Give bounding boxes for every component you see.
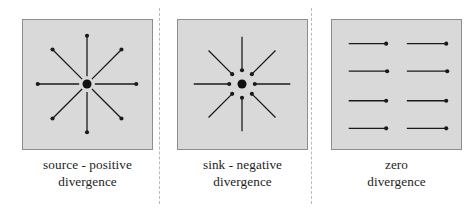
arrow-head-e [134, 82, 138, 86]
caption-sink-line2: divergence [177, 174, 308, 191]
arrow-head-ne [119, 47, 123, 51]
arrow-shaft-nw [54, 51, 83, 80]
zero-arrow-shafts [349, 44, 446, 129]
arrow-head-r1c2 [444, 42, 448, 46]
source-vector-field-box [22, 19, 153, 150]
arrow-shaft-nw [209, 51, 234, 76]
arrow-head-sw [230, 92, 234, 96]
arrow-head-nw [50, 47, 54, 51]
arrow-head-sw [50, 116, 54, 120]
zero-divergence-vector-field-svg [332, 20, 461, 149]
arrow-head-w [36, 82, 40, 86]
sink-vector-field-svg [178, 20, 307, 149]
arrow-head-r4c2 [444, 126, 448, 130]
arrow-head-r3c2 [444, 99, 448, 103]
caption-source-line1: source - positive [22, 157, 153, 174]
source-vector-field-svg [23, 20, 152, 149]
arrow-shaft-se [251, 93, 276, 118]
caption-zero: zero divergence [331, 157, 462, 190]
arrow-head-se [250, 92, 254, 96]
arrow-shaft-se [92, 89, 121, 118]
caption-source-line2: divergence [22, 174, 153, 191]
arrow-head-w [227, 82, 231, 86]
arrow-head-r3c1 [384, 99, 388, 103]
arrow-head-r2c1 [385, 69, 389, 73]
panel-separator-1 [159, 8, 160, 204]
arrow-head-r2c2 [445, 69, 449, 73]
arrow-head-r1c1 [384, 42, 388, 46]
caption-source: source - positive divergence [22, 157, 153, 190]
caption-sink: sink - negative divergence [177, 157, 308, 190]
arrow-shaft-sw [54, 89, 83, 118]
panel-sink: sink - negative divergence [177, 19, 308, 190]
arrow-head-r4c1 [384, 126, 388, 130]
caption-zero-line2: divergence [331, 174, 462, 191]
arrow-head-se [119, 116, 123, 120]
arrow-head-e [253, 82, 257, 86]
arrow-head-n [240, 68, 244, 72]
arrow-head-s [85, 130, 89, 134]
sink-center-dot [237, 79, 246, 88]
sink-vector-field-box [177, 19, 308, 150]
panel-separator-2 [311, 8, 312, 204]
panel-zero: zero divergence [331, 19, 462, 190]
zero-arrow-heads [384, 42, 449, 131]
arrow-shaft-ne [251, 51, 276, 76]
source-center-dot [82, 79, 91, 88]
divergence-figure: source - positive divergence [0, 0, 472, 211]
arrow-head-nw [230, 72, 234, 76]
arrow-head-ne [250, 72, 254, 76]
panel-source: source - positive divergence [22, 19, 153, 190]
arrow-head-n [85, 34, 89, 38]
zero-divergence-vector-field-box [331, 19, 462, 150]
arrow-head-s [240, 96, 244, 100]
caption-zero-line1: zero [331, 157, 462, 174]
arrow-shaft-sw [209, 93, 234, 118]
caption-sink-line1: sink - negative [177, 157, 308, 174]
arrow-shaft-ne [92, 51, 121, 80]
